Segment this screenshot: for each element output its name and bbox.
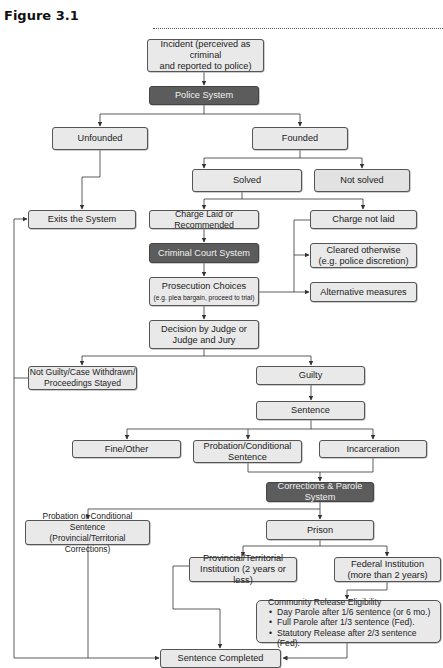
arrow-loop-exits	[14, 219, 27, 658]
node-founded: Founded	[252, 127, 348, 150]
node-criminal-court-system: Criminal Court System	[149, 243, 259, 263]
arrow-founded-solved	[204, 150, 300, 168]
node-federal-institution: Federal Institution (more than 2 years)	[334, 557, 441, 582]
community-release-item: Full Parole after 1/3 sentence (Fed).	[277, 617, 440, 627]
bracket-chargenotlaid	[294, 220, 310, 292]
arrow-sentence-fine	[127, 420, 311, 439]
node-police-system: Police System	[149, 86, 259, 105]
node-not-guilty: Not Guilty/Case Withdrawn/ Proceedings S…	[28, 366, 137, 390]
arrow-decision-notguilty	[82, 349, 204, 365]
arrow-sentence-incarceration	[311, 429, 373, 439]
community-release-item: Statutory Release after 2/3 sentence (Fe…	[277, 628, 440, 648]
node-alternative-measures: Alternative measures	[310, 282, 417, 302]
arrow-police-founded	[204, 114, 300, 126]
node-probation-provincial: Probation or Conditional Sentence (Provi…	[25, 520, 150, 545]
node-incident: Incident (perceived as criminal and repo…	[147, 39, 264, 72]
node-decision: Decision by Judge or Judge and Jury	[149, 320, 259, 349]
node-provincial-institution: Provincial/Territorial Institution (2 ye…	[189, 557, 297, 582]
node-exits-system: Exits the System	[28, 210, 136, 229]
node-sentence-completed: Sentence Completed	[160, 649, 281, 668]
node-fine-other: Fine/Other	[72, 440, 181, 458]
arrow-solved-chargelaid	[204, 192, 242, 209]
node-charge-not-laid: Charge not laid	[310, 210, 417, 229]
node-sentence: Sentence	[256, 401, 365, 420]
node-cleared-otherwise: Cleared otherwise (e.g. police discretio…	[310, 243, 417, 268]
arrow-unfounded-exits	[82, 150, 100, 209]
node-prosecution-choices: Prosecution Choices (e.g. plea bargain, …	[149, 277, 259, 306]
node-corrections-parole-system: Corrections & Parole System	[266, 482, 374, 502]
node-prison: Prison	[266, 520, 374, 540]
arrow-founded-notsolved	[300, 158, 362, 168]
community-release-title: Community Release Eligibility	[268, 597, 440, 607]
node-not-solved: Not solved	[314, 169, 410, 192]
arrow-decision-guilty	[204, 356, 311, 365]
node-guilty: Guilty	[256, 366, 365, 385]
arrow-police-unfounded	[100, 105, 204, 126]
node-probation-conditional: Probation/Conditional Sentence	[193, 440, 302, 463]
node-community-release: Community Release Eligibility Day Parole…	[256, 600, 441, 643]
arrow-to-corrections	[248, 463, 320, 481]
node-charge-laid: Charge Laid or Recommended	[149, 210, 259, 229]
node-solved: Solved	[192, 169, 302, 192]
arrow-prison-federal	[320, 546, 387, 556]
arrow-solved-chargenotlaid	[242, 199, 363, 209]
node-incarceration: Incarceration	[319, 440, 427, 458]
node-unfounded: Unfounded	[52, 127, 148, 150]
community-release-item: Day Parole after 1/6 sentence (or 6 mo.)	[277, 607, 440, 617]
